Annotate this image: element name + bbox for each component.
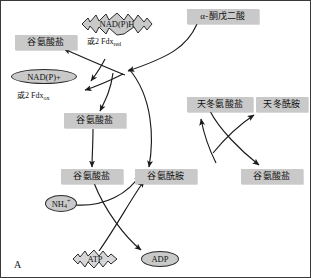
node-nadp-plus-alt: 或2 Fdxox — [17, 89, 49, 100]
node-asparagine[interactable]: 天冬酰胺 — [256, 97, 308, 112]
node-alpha-ketoglutarate[interactable]: α-酮戊二酸 — [187, 9, 259, 24]
node-glutamate-bottom-left[interactable]: 谷氨酸盐 — [61, 169, 123, 184]
arrow-to-asparagine — [213, 115, 254, 153]
arrow-glutamate-to-adp — [94, 183, 141, 250]
node-aspartate[interactable]: 天冬氨酸盐 — [187, 97, 253, 112]
arrow-nadph-in — [91, 59, 105, 81]
node-label: 谷氨酸盐 — [27, 35, 64, 50]
arrow-hub-to-glutamate-midleft — [100, 73, 113, 111]
arrow-glutamate-mid-to-bottom — [92, 129, 93, 167]
node-nadph[interactable]: NAD(P)H — [79, 13, 155, 35]
node-label: 谷氨酸盐 — [73, 169, 110, 184]
node-nadp-plus[interactable]: NAD(P)+ — [11, 69, 77, 84]
figure-panel: α-酮戊二酸 NAD(P)H 或2 Fdxred 谷氨酸盐 NAD(P)+ 或2… — [0, 0, 311, 278]
arrow-hub-to-glutamine — [129, 69, 151, 167]
node-label: 谷氨酸盐 — [253, 169, 290, 184]
node-label: NH4+ — [52, 198, 71, 209]
node-label: NAD(P)H — [79, 13, 155, 35]
node-label: 天冬酰胺 — [263, 97, 300, 112]
node-glutamate-mid-left[interactable]: 谷氨酸盐 — [64, 113, 126, 128]
node-glutamine[interactable]: 谷氨酰胺 — [135, 169, 197, 184]
node-label: α-酮戊二酸 — [200, 9, 246, 24]
panel-letter: A — [14, 259, 21, 270]
node-ammonium[interactable]: NH4+ — [45, 195, 77, 212]
node-label: ADP — [151, 254, 168, 264]
arrow-atp-to-glutamine — [99, 181, 144, 251]
node-atp[interactable]: ATP — [71, 249, 119, 269]
node-nadph-alt: 或2 Fdxred — [87, 35, 121, 46]
arrow-hub-to-nadp — [85, 74, 123, 90]
node-glutamate-top-left[interactable]: 谷氨酸盐 — [15, 35, 77, 50]
arrow-aspartate-to-glutamate-bottomright — [210, 111, 259, 165]
node-label: 天冬氨酸盐 — [197, 97, 244, 112]
node-label: 谷氨酰胺 — [147, 169, 184, 184]
node-adp[interactable]: ADP — [141, 251, 179, 267]
node-glutamate-bottom-right[interactable]: 谷氨酸盐 — [241, 169, 303, 184]
node-label: 谷氨酸盐 — [76, 113, 113, 128]
node-label: NAD(P)+ — [27, 72, 61, 82]
arrow-hub-to-glutamate-topleft — [64, 49, 125, 75]
node-label: ATP — [71, 249, 119, 269]
arrow-to-aspartate — [201, 119, 216, 163]
